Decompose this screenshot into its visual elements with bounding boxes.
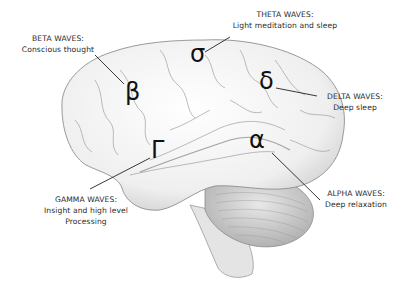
beta-symbol: β	[125, 80, 140, 104]
delta-label: DELTA WAVES: Deep sleep	[318, 91, 392, 113]
beta-label-description: Conscious thought	[12, 44, 104, 55]
beta-label-title: BETA WAVES:	[12, 33, 104, 44]
alpha-label-description: Deep relaxation	[318, 199, 394, 210]
theta-label: THETA WAVES: Light meditation and sleep	[222, 9, 348, 31]
theta-label-description: Light meditation and sleep	[222, 20, 348, 31]
gamma-label-description-line2: Processing	[36, 216, 136, 227]
brainwave-diagram: β σ δ Γ α BETA WAVES: Conscious thought …	[0, 0, 405, 293]
alpha-label: ALPHA WAVES: Deep relaxation	[318, 188, 394, 210]
beta-label: BETA WAVES: Conscious thought	[12, 33, 104, 55]
alpha-label-title: ALPHA WAVES:	[318, 188, 394, 199]
theta-symbol: σ	[190, 42, 205, 66]
delta-symbol: δ	[259, 69, 274, 93]
gamma-label: GAMMA WAVES: Insight and high level Proc…	[36, 194, 136, 227]
alpha-symbol: α	[249, 128, 265, 152]
delta-label-description: Deep sleep	[318, 102, 392, 113]
gamma-label-title: GAMMA WAVES:	[36, 194, 136, 205]
gamma-label-description: Insight and high level	[36, 205, 136, 216]
gamma-symbol: Γ	[151, 138, 164, 162]
delta-label-title: DELTA WAVES:	[318, 91, 392, 102]
theta-label-title: THETA WAVES:	[222, 9, 348, 20]
